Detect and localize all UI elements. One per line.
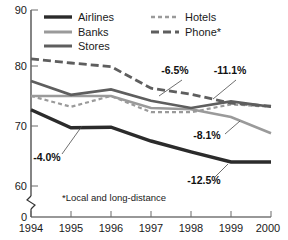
legend-item-phone[interactable]: Phone*	[151, 26, 222, 38]
legend-label-banks: Banks	[78, 26, 109, 38]
annotation-hotels-4-0: -4.0%	[33, 151, 61, 163]
line-chart: 90 80 70 60 0 1994 1995 1996 1997 1998 1…	[0, 0, 288, 240]
legend-label-airlines: Airlines	[78, 11, 115, 23]
annotation-banks-8-1: -8.1%	[193, 129, 221, 141]
x-tick-label-2000: 2000	[256, 222, 280, 234]
y-tick-label-70: 70	[15, 120, 27, 132]
leader-banks	[225, 121, 240, 134]
footnote: *Local and long-distance	[62, 192, 166, 203]
annotation-airlines-12-5: -12.5%	[187, 174, 221, 186]
y-tick-labels: 90 80 70 60 0	[15, 4, 27, 223]
legend: Airlines Banks Stores Hotels Phone*	[44, 11, 222, 52]
axis-group	[27, 10, 271, 217]
y-axis-break-symbol	[27, 196, 35, 209]
leader-stores	[159, 80, 182, 96]
chart-canvas: 90 80 70 60 0 1994 1995 1996 1997 1998 1…	[0, 0, 288, 240]
annotation-stores-6-5: -6.5%	[161, 64, 189, 76]
legend-label-stores: Stores	[78, 40, 110, 52]
leader-phone	[213, 80, 236, 99]
legend-item-stores[interactable]: Stores	[44, 40, 110, 52]
x-tick-label-1999: 1999	[219, 222, 243, 234]
x-tick-label-1996: 1996	[99, 222, 123, 234]
legend-item-hotels[interactable]: Hotels	[151, 11, 217, 23]
legend-item-banks[interactable]: Banks	[44, 26, 109, 38]
x-tick-label-1994: 1994	[19, 222, 43, 234]
x-tick-label-1998: 1998	[179, 222, 203, 234]
y-tick-label-60: 60	[15, 180, 27, 192]
y-tick-label-80: 80	[15, 60, 27, 72]
x-tick-label-1995: 1995	[59, 222, 83, 234]
annotation-phone-11-1: -11.1%	[214, 64, 247, 76]
x-tick-label-1997: 1997	[139, 222, 163, 234]
y-tick-label-90: 90	[15, 4, 27, 16]
x-tick-labels: 1994 1995 1996 1997 1998 1999 2000	[19, 222, 280, 234]
legend-label-phone: Phone*	[185, 26, 222, 38]
legend-label-hotels: Hotels	[185, 11, 217, 23]
leader-hotels	[62, 126, 82, 154]
legend-item-airlines[interactable]: Airlines	[44, 11, 115, 23]
